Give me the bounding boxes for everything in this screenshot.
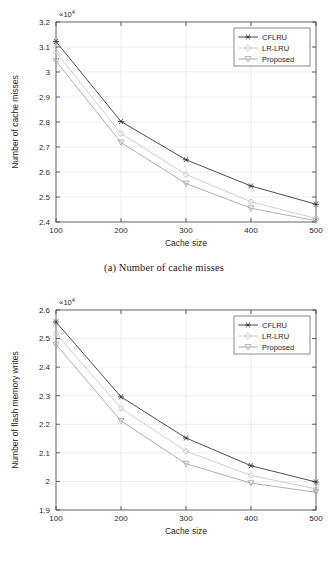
x-tick-label: 200 [114,514,128,523]
x-tick-label: 400 [244,514,258,523]
legend: CFLRULR-LRUProposed [234,316,310,354]
y-tick-label: 2.6 [39,168,51,177]
y-tick-label: 2.8 [39,118,51,127]
plot-area-b: 1.922.12.22.32.42.52.6100200300400500×10… [0,288,328,546]
plot-area-a: 2.42.52.62.72.82.933.13.2100200300400500… [0,0,328,258]
x-tick-label: 300 [179,226,193,235]
x-tick-label: 200 [114,226,128,235]
y-axis-exponent: ×104 [59,9,75,19]
panel-flash-writes: 1.922.12.22.32.42.52.6100200300400500×10… [0,288,328,574]
legend-label-lr-lru: LR-LRU [262,332,289,341]
legend-label-proposed: Proposed [262,55,294,64]
legend-label-cflru: CFLRU [262,33,287,42]
x-tick-label: 400 [244,226,258,235]
y-tick-label: 3.2 [39,18,51,27]
x-tick-label: 100 [49,514,63,523]
y-tick-label: 2.7 [39,143,51,152]
figure-container: 2.42.52.62.72.82.933.13.2100200300400500… [0,0,328,574]
legend-label-proposed: Proposed [262,343,294,352]
x-tick-label: 100 [49,226,63,235]
chart-svg-a: 2.42.52.62.72.82.933.13.2100200300400500… [0,0,328,258]
x-axis-title: Cache size [165,238,207,248]
panel-cache-misses: 2.42.52.62.72.82.933.13.2100200300400500… [0,0,328,288]
legend: CFLRULR-LRUProposed [234,28,310,66]
y-tick-label: 2.1 [39,449,51,458]
chart-svg-b: 1.922.12.22.32.42.52.6100200300400500×10… [0,288,328,546]
y-tick-label: 3 [46,68,51,77]
legend-label-cflru: CFLRU [262,321,287,330]
x-tick-label: 500 [309,514,323,523]
y-axis-title: Number of flash memory writes [10,351,20,469]
x-axis-title: Cache size [165,526,207,536]
x-tick-label: 500 [309,226,323,235]
y-tick-label: 3.1 [39,43,51,52]
caption-a: (a) Number of cache misses [0,262,328,273]
y-axis-exponent: ×104 [59,297,75,307]
y-tick-label: 2.5 [39,193,51,202]
x-tick-label: 300 [179,514,193,523]
y-tick-label: 2 [46,477,51,486]
y-tick-label: 2.6 [39,306,51,315]
y-tick-label: 2.9 [39,93,51,102]
y-axis-title: Number of cache misses [10,75,20,169]
y-tick-label: 2.4 [39,363,51,372]
y-tick-label: 2.2 [39,420,51,429]
y-tick-label: 2.3 [39,392,51,401]
legend-label-lr-lru: LR-LRU [262,44,289,53]
y-tick-label: 2.5 [39,334,51,343]
